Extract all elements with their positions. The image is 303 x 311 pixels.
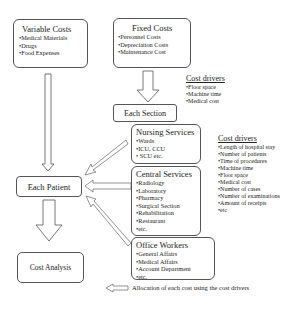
central-services-item: •Restaurant bbox=[136, 217, 200, 225]
cost-driver-item: •Medical cost bbox=[218, 179, 280, 186]
central-services-item: •Rehabilitation bbox=[136, 209, 200, 217]
cost-driver-item: •Machine time bbox=[186, 91, 225, 98]
cost-driver-item: •Medical cost bbox=[186, 98, 225, 105]
variable-costs-item: •Food Expenses bbox=[19, 49, 87, 57]
variable-costs-box: Variable Costs •Medical Materials •Drugs… bbox=[13, 19, 88, 68]
cost-driver-item: •Amount of receipts bbox=[218, 200, 280, 207]
cost-drivers-right-title: Cost drivers bbox=[218, 134, 280, 144]
office-workers-item: •Medical Affairs bbox=[136, 258, 214, 266]
fixed-costs-item: •Maintenance Cost bbox=[118, 48, 190, 56]
fixed-costs-item: •Personnel Costs bbox=[118, 33, 190, 41]
office-workers-item: •Account Department bbox=[136, 265, 214, 273]
each-patient-box: Each Patient bbox=[16, 176, 82, 197]
patient-to-analysis-arrow bbox=[36, 200, 62, 241]
office-to-patient-arrow bbox=[86, 196, 131, 246]
central-to-patient-arrow bbox=[85, 180, 131, 192]
legend-text: Allocation of each cost using the cost d… bbox=[132, 284, 249, 292]
nursing-services-title: Nursing Services bbox=[136, 127, 200, 137]
central-services-box: Central Services •Radiology •Laboratory … bbox=[131, 166, 201, 236]
central-services-item: •Radiology bbox=[136, 179, 200, 187]
each-section-box: Each Section bbox=[113, 104, 177, 122]
cost-driver-item: •Number of patients bbox=[218, 151, 280, 158]
cost-driver-item: •Machine time bbox=[218, 165, 280, 172]
nursing-services-item: •Wards bbox=[136, 137, 200, 145]
cost-driver-item: •Time of procedures bbox=[218, 158, 280, 165]
nursing-services-item: • SCU etc. bbox=[136, 152, 200, 160]
central-services-item: •Surgical Section bbox=[136, 202, 200, 210]
office-workers-item: •etc. bbox=[136, 273, 214, 281]
cost-analysis-label: Cost Analysis bbox=[30, 263, 71, 272]
each-patient-label: Each Patient bbox=[28, 182, 71, 192]
variable-costs-title: Variable Costs bbox=[19, 24, 87, 34]
cost-drivers-top: Cost drivers •Floor space •Machine time … bbox=[186, 74, 225, 105]
variable-costs-item: •Medical Materials bbox=[19, 34, 87, 42]
office-workers-box: Office Workers •General Affairs •Medical… bbox=[131, 237, 215, 280]
cost-driver-item: •etc bbox=[218, 207, 280, 214]
fixed-costs-item: •Depreciation Costs bbox=[118, 41, 190, 49]
fixed-costs-title: Fixed Costs bbox=[118, 23, 190, 33]
cost-driver-item: •Length of hospital stay bbox=[218, 144, 280, 151]
central-services-item: •Laboratory bbox=[136, 187, 200, 195]
cost-drivers-right: Cost drivers •Length of hospital stay •N… bbox=[218, 134, 280, 214]
cost-driver-item: •Floor space bbox=[218, 172, 280, 179]
central-services-title: Central Services bbox=[136, 169, 200, 179]
fixed-to-section-arrow bbox=[137, 71, 159, 102]
cost-driver-item: •Number of examinations bbox=[218, 193, 280, 200]
fixed-costs-box: Fixed Costs •Personnel Costs •Depreciati… bbox=[113, 18, 191, 68]
office-workers-item: •General Affairs bbox=[136, 250, 214, 258]
cost-drivers-top-title: Cost drivers bbox=[186, 74, 225, 84]
cost-driver-item: •Floor space bbox=[186, 84, 225, 91]
cost-driver-item: •Number of cases bbox=[218, 186, 280, 193]
each-section-label: Each Section bbox=[124, 109, 166, 118]
central-services-item: •etc. bbox=[136, 225, 200, 233]
variable-costs-item: •Drugs bbox=[19, 42, 87, 50]
variable-to-patient-arrow bbox=[42, 74, 54, 171]
central-services-item: •Pharmacy bbox=[136, 194, 200, 202]
legend-arrow-icon bbox=[106, 284, 128, 292]
nursing-services-item: •ICU, CCU bbox=[136, 145, 200, 153]
nursing-to-patient-arrow bbox=[85, 140, 128, 175]
nursing-services-box: Nursing Services •Wards •ICU, CCU • SCU … bbox=[131, 124, 201, 164]
cost-analysis-box: Cost Analysis bbox=[17, 252, 84, 283]
office-workers-title: Office Workers bbox=[136, 240, 214, 250]
